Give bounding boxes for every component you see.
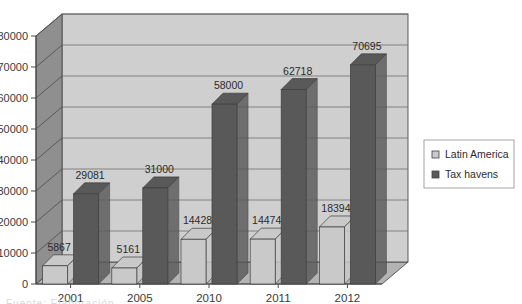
y-axis-label: 40000 (0, 154, 28, 166)
y-axis-label: 30000 (0, 185, 28, 197)
data-label-2005-series2: 31000 (145, 163, 174, 175)
y-axis-label: 60000 (0, 92, 28, 104)
data-label-2005-series1: 5161 (117, 243, 141, 255)
x-axis-label-2010: 2010 (196, 292, 222, 304)
cropped-footer-text: Fuente: Elaboración (6, 298, 115, 304)
bar-2001-series2 (74, 194, 99, 284)
bar-2010-series2 (212, 104, 237, 284)
bar-2011-series2 (281, 90, 306, 284)
bar-2011-series2-side (306, 79, 317, 284)
x-axis-label-2005: 2005 (127, 292, 153, 304)
legend-swatch-2 (432, 171, 439, 178)
bar-2010-series2-side (237, 93, 248, 284)
bar-2012-series2-side (375, 54, 386, 284)
x-axis-label-2012: 2012 (335, 292, 361, 304)
legend-label-2: Tax havens (445, 168, 498, 180)
data-label-2011-series2: 62718 (283, 65, 312, 77)
data-label-2010-series1: 14428 (183, 214, 212, 226)
legend-swatch-1 (432, 151, 439, 158)
y-axis-label: 20000 (0, 216, 28, 228)
bar-2011-series1 (250, 239, 275, 284)
data-label-2001-series1: 5867 (47, 241, 71, 253)
bar-2005-series2-side (168, 177, 179, 284)
y-axis-label: 10000 (0, 247, 28, 259)
bar-2005-series1 (112, 268, 137, 284)
chart-canvas: 0100002000030000400005000060000700008000… (0, 0, 522, 304)
y-axis-label: 80000 (0, 30, 28, 42)
x-axis-label-2011: 2011 (266, 292, 291, 304)
bar-2005-series2 (143, 188, 168, 284)
data-label-2012-series1: 18394 (321, 202, 350, 214)
data-label-2001-series2: 29081 (75, 169, 104, 181)
bar-2012-series2 (350, 65, 375, 284)
y-axis-label: 70000 (0, 61, 28, 73)
data-label-2010-series2: 58000 (214, 79, 243, 91)
bar-2012-series1 (319, 227, 344, 284)
data-label-2011-series1: 14474 (252, 214, 281, 226)
y-axis-label: 50000 (0, 123, 28, 135)
bar-chart: 0100002000030000400005000060000700008000… (0, 0, 522, 304)
bar-2001-series1 (43, 266, 68, 284)
data-label-2012-series2: 70695 (352, 40, 381, 52)
y-axis-label: 0 (22, 278, 28, 290)
legend-label-1: Latin America (445, 148, 509, 160)
bar-2010-series1 (181, 239, 206, 284)
bar-2001-series2-side (99, 183, 110, 284)
